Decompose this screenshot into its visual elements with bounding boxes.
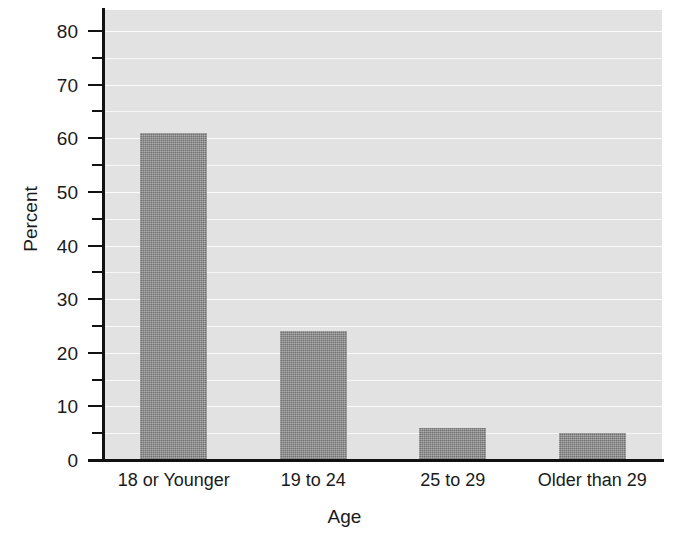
y-tick-minor — [92, 218, 103, 220]
y-axis-tick-labels: 01020304050607080 — [32, 0, 78, 547]
y-axis-title: Percent — [20, 174, 42, 264]
x-tick-label-2: 19 to 24 — [244, 470, 384, 491]
y-tick-minor — [92, 57, 103, 59]
y-tick-label: 20 — [32, 344, 78, 363]
bar-1 — [140, 133, 207, 460]
y-tick-label: 70 — [32, 76, 78, 95]
y-tick-minor — [92, 164, 103, 166]
y-tick-minor — [92, 271, 103, 273]
y-tick-major — [88, 405, 103, 407]
x-tick-label-4: Older than 29 — [523, 470, 663, 491]
bar-2 — [280, 331, 347, 460]
y-tick-major — [88, 84, 103, 86]
y-tick-label: 30 — [32, 290, 78, 309]
x-tick-label-1: 18 or Younger — [104, 470, 244, 491]
y-tick-minor — [92, 379, 103, 381]
gridline — [104, 85, 662, 86]
y-tick-label: 0 — [32, 451, 78, 470]
y-tick-label: 10 — [32, 397, 78, 416]
y-tick-minor — [92, 110, 103, 112]
y-tick-major — [88, 137, 103, 139]
y-tick-minor — [92, 325, 103, 327]
bar-3 — [419, 428, 486, 460]
y-tick-major — [88, 298, 103, 300]
gridline — [104, 31, 662, 32]
x-tick-label-3: 25 to 29 — [383, 470, 523, 491]
y-axis-line — [102, 8, 105, 462]
y-tick-major — [88, 245, 103, 247]
bar-4 — [559, 433, 626, 460]
y-tick-major — [88, 352, 103, 354]
gridline — [104, 58, 662, 59]
y-tick-major — [88, 30, 103, 32]
y-tick-major — [88, 459, 103, 461]
x-axis-title: Age — [0, 506, 689, 528]
y-tick-label: 80 — [32, 22, 78, 41]
plot-area — [104, 10, 662, 460]
bar-chart-figure: 01020304050607080 18 or Younger19 to 242… — [0, 0, 689, 547]
x-axis-line — [88, 459, 664, 462]
gridline — [104, 111, 662, 112]
y-tick-major — [88, 191, 103, 193]
y-tick-label: 60 — [32, 129, 78, 148]
y-tick-minor — [92, 432, 103, 434]
